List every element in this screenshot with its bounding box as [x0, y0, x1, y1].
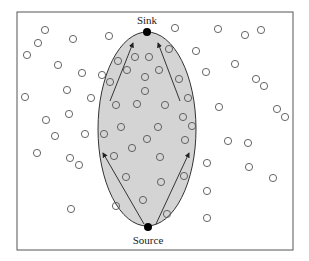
- sensor-node-icon: [41, 26, 48, 33]
- sensor-node-icon: [273, 105, 280, 112]
- sensor-node-icon: [252, 75, 259, 82]
- sensor-node-icon: [215, 103, 222, 110]
- sink-source-diagram: [0, 0, 309, 261]
- sensor-node-icon: [98, 71, 105, 78]
- sensor-node-icon: [66, 154, 73, 161]
- sensor-node-icon: [269, 174, 276, 181]
- sensor-node-icon: [241, 31, 248, 38]
- sensor-node-icon: [260, 82, 267, 89]
- sensor-node-icon: [105, 32, 112, 39]
- sensor-node-icon: [202, 68, 209, 75]
- sink-label: Sink: [137, 14, 157, 26]
- sensor-node-icon: [69, 35, 76, 42]
- sensor-node-icon: [214, 25, 221, 32]
- sensor-node-icon: [23, 51, 30, 58]
- sensor-node-icon: [257, 26, 264, 33]
- sensor-node-icon: [231, 60, 238, 67]
- sensor-node-icon: [21, 93, 28, 100]
- sensor-node-icon: [67, 205, 74, 212]
- sensor-node-icon: [54, 61, 61, 68]
- sensor-node-icon: [81, 130, 88, 137]
- sensor-node-icon: [192, 47, 199, 54]
- sensor-node-icon: [281, 113, 288, 120]
- sensor-node-icon: [75, 161, 82, 168]
- sensor-node-icon: [203, 214, 210, 221]
- sensor-node-icon: [171, 24, 178, 31]
- sink-node-icon: [143, 28, 151, 36]
- sensor-node-icon: [63, 86, 70, 93]
- sensor-node-icon: [34, 39, 41, 46]
- sensor-node-icon: [33, 149, 40, 156]
- sensor-node-icon: [224, 137, 231, 144]
- source-label: Source: [133, 234, 164, 246]
- sensor-node-icon: [87, 94, 94, 101]
- sensor-node-icon: [203, 187, 210, 194]
- sensor-node-icon: [245, 163, 252, 170]
- routing-region-ellipse: [98, 32, 196, 226]
- sensor-node-icon: [203, 159, 210, 166]
- sensor-node-icon: [244, 139, 251, 146]
- source-node-icon: [144, 223, 152, 231]
- sensor-node-icon: [65, 110, 72, 117]
- sensor-node-icon: [42, 116, 49, 123]
- sensor-node-icon: [51, 132, 58, 139]
- sensor-node-icon: [78, 69, 85, 76]
